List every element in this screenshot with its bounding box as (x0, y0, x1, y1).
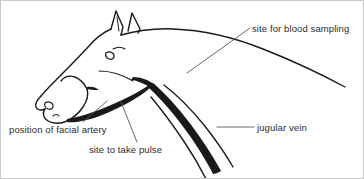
face-front-line (41, 29, 111, 96)
leader-lines (83, 28, 254, 142)
nostril (45, 102, 54, 109)
eye-region (106, 48, 125, 60)
neck-topline (121, 29, 345, 87)
cheek-curve (61, 76, 87, 89)
neck-lower-edge (164, 85, 233, 167)
brow-line (113, 48, 125, 50)
facial-crest-line (99, 71, 133, 81)
jugular-vein-line (149, 83, 221, 174)
near-ear-inner (117, 17, 119, 31)
facial-crest (99, 71, 133, 81)
head-outline (36, 29, 111, 123)
eye (106, 52, 115, 59)
label-jugular-vein: jugular vein (257, 122, 307, 133)
cheek-accent (87, 87, 99, 90)
leader-take-pulse (121, 102, 137, 142)
label-take-pulse: site to take pulse (89, 144, 162, 155)
label-facial-artery: position of facial artery (9, 124, 107, 135)
nose-line (36, 96, 45, 110)
facial-artery-shading (67, 84, 153, 122)
far-ear (128, 13, 140, 33)
chin-mark (53, 115, 59, 117)
near-ear (111, 11, 123, 35)
lower-lip-line (43, 109, 67, 123)
label-blood-sampling: site for blood sampling (252, 23, 349, 34)
anatomy-figure: site for blood sampling jugular vein pos… (0, 0, 364, 179)
crest-line (121, 29, 345, 87)
